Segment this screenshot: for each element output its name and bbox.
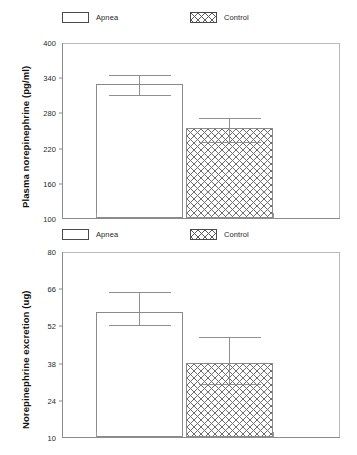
y-tick-mark (59, 363, 63, 364)
legend-label-apnea: Apnea (96, 13, 118, 22)
legend-entry-apnea[interactable]: Apnea (62, 229, 118, 240)
y-tick-38: 38 (47, 359, 63, 368)
panel-norepinephrine-excretion: Apnea Control Norepinephrine excretion (… (0, 228, 357, 455)
y-axis-label-top: Plasma norepinephrine (pg/ml) (20, 66, 31, 208)
y-tick-24: 24 (47, 396, 63, 405)
error-bar-stem (139, 75, 140, 96)
error-bar-apnea-excretion (96, 292, 183, 327)
panel-plasma-norepinephrine: Apnea Control Plasma norepinephrine (pg/… (0, 0, 357, 228)
error-bar-apnea-plasma (96, 75, 183, 96)
y-tick-220: 220 (43, 144, 63, 153)
error-bar-cap-lower (199, 384, 261, 385)
y-tick-340: 340 (43, 74, 63, 83)
y-tick-mark (59, 326, 63, 327)
bar-apnea-excretion[interactable] (96, 312, 183, 437)
error-bar-control-plasma (186, 118, 273, 143)
legend-label-control: Control (224, 13, 249, 22)
y-tick-66: 66 (47, 285, 63, 294)
bar-apnea-plasma[interactable] (96, 84, 183, 218)
y-tick-mark (59, 183, 63, 184)
y-tick-mark (59, 252, 63, 253)
plot-frame-right-edge (339, 252, 340, 437)
error-bar-control-excretion (186, 337, 273, 385)
plot-area-bottom: 80 66 52 38 24 10 (62, 252, 340, 438)
x-separator-tick (273, 213, 274, 218)
y-tick-mark (59, 113, 63, 114)
error-bar-cap-upper (109, 75, 171, 76)
plot-frame-top-edge (63, 252, 340, 253)
x-separator-tick (96, 213, 97, 218)
legend-label-control: Control (224, 230, 249, 239)
y-tick-mark (59, 219, 63, 220)
plot-frame-top-edge (63, 43, 340, 44)
error-bar-cap-lower (109, 95, 171, 96)
plot-frame-right-edge (339, 43, 340, 218)
y-tick-10: 10 (47, 434, 63, 443)
y-tick-mark (59, 148, 63, 149)
legend-entry-apnea[interactable]: Apnea (62, 12, 118, 23)
y-tick-mark (59, 400, 63, 401)
legend-swatch-control-icon (190, 229, 217, 240)
legend-swatch-control-icon (190, 12, 217, 23)
y-tick-52: 52 (47, 322, 63, 331)
legend-label-apnea: Apnea (96, 230, 118, 239)
legend-swatch-apnea-icon (62, 229, 89, 240)
error-bar-cap-upper (109, 292, 171, 293)
y-tick-mark (59, 78, 63, 79)
y-axis-label-bottom: Norepinephrine excretion (ug) (20, 290, 31, 429)
y-tick-80: 80 (47, 248, 63, 257)
legend-entry-control[interactable]: Control (190, 12, 249, 23)
error-bar-cap-upper (199, 118, 261, 119)
error-bar-cap-upper (199, 337, 261, 338)
y-tick-280: 280 (43, 109, 63, 118)
y-tick-mark (59, 289, 63, 290)
legend-entry-control[interactable]: Control (190, 229, 249, 240)
error-bar-stem (229, 118, 230, 143)
y-tick-400: 400 (43, 39, 63, 48)
legend-swatch-apnea-icon (62, 12, 89, 23)
x-separator-tick (273, 432, 274, 437)
y-tick-mark (59, 43, 63, 44)
figure-two-panel-bar-charts: Apnea Control Plasma norepinephrine (pg/… (0, 0, 357, 455)
error-bar-cap-lower (109, 325, 171, 326)
y-tick-100: 100 (43, 215, 63, 224)
error-bar-cap-lower (199, 142, 261, 143)
y-tick-160: 160 (43, 179, 63, 188)
plot-area-top: 400 340 280 220 160 100 (62, 43, 340, 219)
error-bar-stem (139, 292, 140, 327)
legend-top: Apnea Control (0, 12, 357, 34)
x-separator-tick (96, 432, 97, 437)
error-bar-stem (229, 337, 230, 385)
y-tick-mark (59, 438, 63, 439)
